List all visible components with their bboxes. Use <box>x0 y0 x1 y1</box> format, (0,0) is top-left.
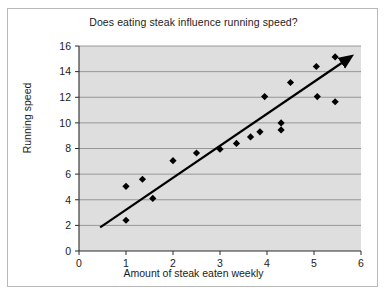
svg-text:16: 16 <box>59 40 71 52</box>
svg-text:2: 2 <box>65 219 71 231</box>
svg-text:4: 4 <box>264 257 270 269</box>
svg-text:12: 12 <box>59 91 71 103</box>
plot-area: 0246810121416 0123456 <box>8 9 379 288</box>
x-axis-ticks: 0123456 <box>76 251 364 269</box>
svg-text:14: 14 <box>59 65 71 77</box>
scatter-chart: Does eating steak influence running spee… <box>8 9 379 288</box>
figure-frame: Does eating steak influence running spee… <box>7 8 378 287</box>
svg-text:2: 2 <box>170 257 176 269</box>
svg-text:1: 1 <box>123 257 129 269</box>
y-axis-ticks: 0246810121416 <box>59 40 79 257</box>
svg-text:6: 6 <box>65 168 71 180</box>
svg-text:3: 3 <box>217 257 223 269</box>
svg-text:10: 10 <box>59 117 71 129</box>
svg-text:5: 5 <box>311 257 317 269</box>
svg-text:0: 0 <box>76 257 82 269</box>
svg-text:0: 0 <box>65 245 71 257</box>
svg-text:6: 6 <box>358 257 364 269</box>
svg-text:8: 8 <box>65 142 71 154</box>
svg-text:4: 4 <box>65 194 71 206</box>
